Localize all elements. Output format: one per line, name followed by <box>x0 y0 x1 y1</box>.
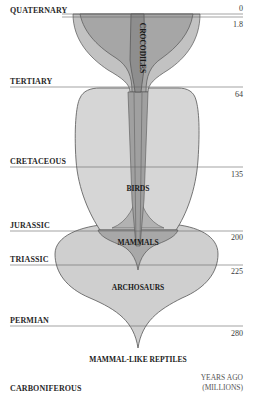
age-label-135: 135 <box>231 170 243 179</box>
spindle-diagram-canvas: QUATERNARY TERTIARY CRETACEOUS JURASSIC … <box>0 0 253 393</box>
age-label-200: 200 <box>231 233 243 242</box>
evolution-diagram: QUATERNARY TERTIARY CRETACEOUS JURASSIC … <box>0 0 253 393</box>
clade-label-birds: BIRDS <box>127 184 150 193</box>
clade-label-archosaurs: ARCHOSAURS <box>112 283 165 292</box>
period-label-permian: PERMIAN <box>10 316 49 325</box>
period-label-triassic: TRIASSIC <box>10 255 49 264</box>
age-label-280: 280 <box>231 329 243 338</box>
age-label-0: 0 <box>239 4 243 13</box>
period-label-cretaceous: CRETACEOUS <box>10 157 66 166</box>
period-label-jurassic: JURASSIC <box>10 221 50 230</box>
age-label-64: 64 <box>235 90 243 99</box>
axis-caption-line2: (MILLIONS) <box>202 383 243 392</box>
age-label-1-8: 1.8 <box>233 20 243 29</box>
clade-label-crocodiles: CROCODILES <box>138 23 147 73</box>
clade-label-mammals: MAMMALS <box>117 238 158 247</box>
clade-label-mammal-like-reptiles: MAMMAL-LIKE REPTILES <box>89 355 186 364</box>
period-label-tertiary: TERTIARY <box>10 77 53 86</box>
period-label-quaternary: QUATERNARY <box>10 6 68 15</box>
age-label-225: 225 <box>231 267 243 276</box>
period-label-carboniferous: CARBONIFEROUS <box>10 384 82 393</box>
axis-caption-line1: YEARS AGO <box>201 373 244 382</box>
